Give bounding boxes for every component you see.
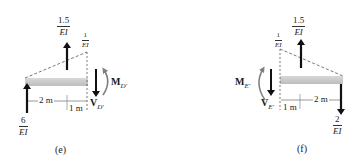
panel-e-drawing [0,0,180,168]
triangle-peak-value: 1EI [275,32,282,49]
moment-arrow-icon [259,69,265,100]
dimension-2m: 2 m [313,94,329,104]
shear-label: VE′ [261,97,274,111]
panel-e: 1.5EI 1EI 6EI 2 m 1 m MD′ VD′ (e) [0,0,180,168]
panel-f: 1.5EI 1EI 2EI 1 m 2 m ME′ VE′ (f) [180,0,359,168]
shear-label: VD′ [90,97,104,111]
left-reaction-value: 6EI [19,116,28,137]
load-triangle-edge [25,52,87,78]
caption-e: (e) [55,144,66,155]
resultant-value: 1.5EI [292,16,305,37]
load-triangle-edge [280,49,343,76]
moment-label: ME′ [235,76,250,90]
right-reaction-value: 2EI [333,115,342,136]
beam [25,78,88,86]
caption-f: (f) [297,143,307,154]
beam [280,76,343,84]
dimension-2m: 2 m [38,95,54,105]
moment-label: MD′ [111,76,127,90]
dimension-1m: 1 m [68,103,84,113]
moment-arrow-icon [103,70,108,95]
panel-f-drawing [180,0,359,168]
dimension-1m: 1 m [282,102,298,112]
triangle-peak-value: 1EI [82,32,89,49]
resultant-value: 1.5EI [57,16,70,37]
